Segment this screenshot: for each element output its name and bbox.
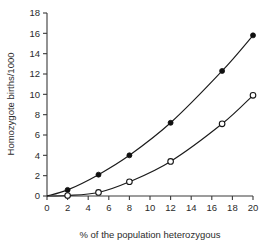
data-point-filled-circles (251, 33, 256, 38)
data-point-open-circles (250, 93, 256, 99)
data-point-filled-circles (96, 172, 101, 177)
data-point-open-circles (219, 121, 225, 127)
y-tick-label: 14 (29, 48, 40, 59)
data-point-filled-circles (220, 68, 225, 73)
x-axis-title: % of the population heterozygous (79, 229, 220, 240)
data-point-filled-circles (127, 153, 132, 158)
y-tick-label: 6 (35, 129, 40, 140)
y-axis-title: Homozygote births/1000 (5, 53, 16, 156)
chart-plot-area: 02468101214161820 024681012141618 % of t… (0, 0, 275, 245)
series-line-filled-circles (47, 35, 253, 196)
y-tick-label: 8 (35, 109, 40, 120)
y-axis-ticks: 024681012141618 (29, 7, 47, 201)
y-tick-label: 12 (29, 68, 40, 79)
series-line-open-circles (47, 95, 253, 196)
x-tick-label: 16 (207, 202, 218, 213)
data-series-group (47, 33, 256, 198)
data-point-open-circles (168, 159, 174, 165)
data-point-open-circles (65, 193, 71, 199)
x-axis-ticks: 02468101214161820 (44, 196, 258, 213)
x-tick-label: 2 (65, 202, 70, 213)
x-tick-label: 8 (127, 202, 132, 213)
y-tick-label: 16 (29, 28, 40, 39)
y-tick-label: 10 (29, 89, 40, 100)
x-tick-label: 10 (145, 202, 156, 213)
x-tick-label: 4 (86, 202, 91, 213)
y-tick-label: 4 (35, 150, 40, 161)
data-point-open-circles (127, 179, 133, 185)
axes-group (47, 13, 253, 196)
data-point-open-circles (96, 190, 102, 196)
x-tick-label: 6 (106, 202, 111, 213)
y-tick-label: 18 (29, 7, 40, 18)
x-tick-label: 0 (44, 202, 49, 213)
x-tick-label: 12 (165, 202, 176, 213)
y-tick-label: 2 (35, 170, 40, 181)
data-point-filled-circles (65, 187, 70, 192)
x-tick-label: 20 (248, 202, 259, 213)
x-tick-label: 18 (227, 202, 238, 213)
x-tick-label: 14 (186, 202, 197, 213)
chart-figure: 02468101214161820 024681012141618 % of t… (0, 0, 275, 245)
data-point-filled-circles (168, 120, 173, 125)
y-tick-label: 0 (35, 190, 40, 201)
